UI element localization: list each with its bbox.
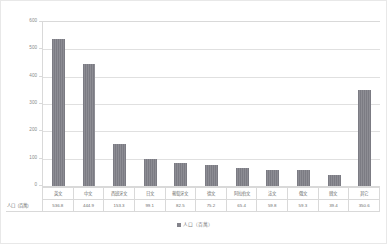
table-category-cell: 俄文 xyxy=(288,188,319,200)
bar[interactable] xyxy=(358,90,371,186)
table-value-cell: 350.6 xyxy=(349,200,380,212)
table-row-header: 人口（百萬） xyxy=(6,200,43,212)
table-category-cell: 韓文 xyxy=(318,188,349,200)
table-category-cell: 其它 xyxy=(349,188,380,200)
table-value-cell: 59.3 xyxy=(288,200,319,212)
y-tick-label-400: 400 xyxy=(29,73,37,78)
bar-slot xyxy=(319,22,350,186)
y-axis: 600 500 400 300 200 100 0 xyxy=(1,21,42,187)
legend-label: 人口（百萬） xyxy=(183,223,213,228)
chart-legend: 人口（百萬） xyxy=(1,223,387,228)
table-value-cell: 82.5 xyxy=(165,200,196,212)
bar-slot xyxy=(43,22,74,186)
bar[interactable] xyxy=(236,168,249,186)
bar[interactable] xyxy=(144,159,157,186)
bar-slot xyxy=(349,22,380,186)
table-category-cell: 阿拉伯文 xyxy=(226,188,257,200)
bar-slot xyxy=(257,22,288,186)
bar-slot xyxy=(74,22,105,186)
table-row-categories: 英文中文西班牙文日文葡萄牙文德文阿拉伯文法文俄文韓文其它 xyxy=(6,188,380,200)
table-corner-blank xyxy=(6,188,43,200)
y-tick-label-300: 300 xyxy=(29,101,37,106)
bar-slot xyxy=(104,22,135,186)
y-tick-label-500: 500 xyxy=(29,46,37,51)
table-category-cell: 葡萄牙文 xyxy=(165,188,196,200)
bar-series xyxy=(43,22,380,186)
table-category-cell: 中文 xyxy=(73,188,104,200)
data-table: 英文中文西班牙文日文葡萄牙文德文阿拉伯文法文俄文韓文其它 人口（百萬） 536.… xyxy=(6,187,380,212)
bar-slot xyxy=(288,22,319,186)
table-value-cell: 65.4 xyxy=(226,200,257,212)
table-value-cell: 75.2 xyxy=(196,200,227,212)
bar[interactable] xyxy=(205,165,218,186)
chart-frame: 600 500 400 300 200 100 0 英文中文西班牙文日文葡萄牙文… xyxy=(0,0,387,244)
table-value-cell: 153.3 xyxy=(104,200,135,212)
y-tick-label-600: 600 xyxy=(29,19,37,24)
bar[interactable] xyxy=(174,163,187,186)
bar-slot xyxy=(196,22,227,186)
y-tick-label-100: 100 xyxy=(29,155,37,160)
y-tick-label-200: 200 xyxy=(29,128,37,133)
bar[interactable] xyxy=(297,170,310,186)
bar-slot xyxy=(135,22,166,186)
table-value-cell: 99.1 xyxy=(134,200,165,212)
table-category-cell: 德文 xyxy=(196,188,227,200)
bar-slot xyxy=(227,22,258,186)
bar-slot xyxy=(166,22,197,186)
table-category-cell: 英文 xyxy=(43,188,74,200)
legend-swatch-icon xyxy=(177,223,181,227)
table-category-cell: 西班牙文 xyxy=(104,188,135,200)
plot-area xyxy=(42,21,380,187)
table-value-cell: 536.8 xyxy=(43,200,74,212)
bar[interactable] xyxy=(52,39,65,186)
table-category-cell: 法文 xyxy=(257,188,288,200)
table-value-cell: 39.4 xyxy=(318,200,349,212)
table-row-values: 人口（百萬） 536.8444.9153.399.182.575.265.459… xyxy=(6,200,380,212)
table-category-cell: 日文 xyxy=(134,188,165,200)
table-value-cell: 444.9 xyxy=(73,200,104,212)
table-value-cell: 59.8 xyxy=(257,200,288,212)
bar[interactable] xyxy=(83,64,96,186)
bar[interactable] xyxy=(266,170,279,186)
bar[interactable] xyxy=(113,144,126,186)
bar[interactable] xyxy=(328,175,341,186)
